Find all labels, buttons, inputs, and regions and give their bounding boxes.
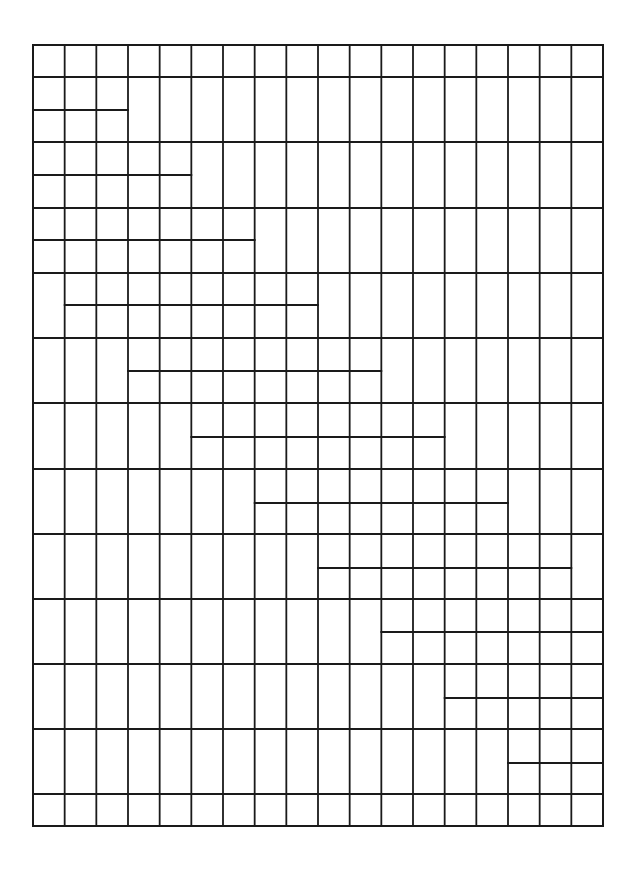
staggered-grid-diagram [0,0,634,871]
